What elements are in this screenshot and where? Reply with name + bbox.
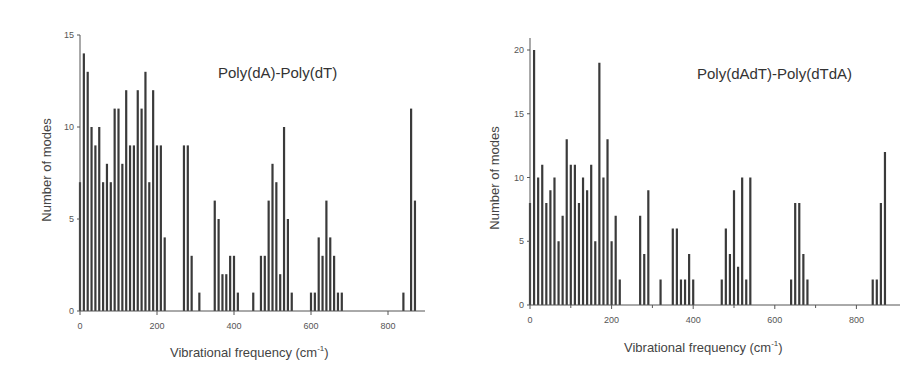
bar [291,293,293,311]
bar [318,237,320,311]
bar [749,178,751,306]
bar [198,293,200,311]
bar [806,280,808,306]
left-chart-title: Poly(dA)-Poly(dT) [218,64,337,81]
bar [615,216,617,305]
bar [541,165,543,305]
bar [187,145,189,311]
y-tick-label: 0 [69,306,74,316]
bar [578,203,580,305]
x-tick-label: 400 [686,315,701,325]
bar [337,293,339,311]
bar [611,241,613,305]
bar [325,201,327,311]
bar [557,241,559,305]
right-y-axis-title: Number of modes [487,126,502,230]
bar [271,164,273,311]
x-tick-label: 600 [767,315,782,325]
bar [260,256,262,311]
bar [737,267,739,305]
bar [83,53,85,311]
bar [590,165,592,305]
bar [688,254,690,305]
bar [537,178,539,306]
bar [410,109,412,311]
bar [680,280,682,306]
bar [110,182,112,311]
bar [329,237,331,311]
bar [314,293,316,311]
bar [221,274,223,311]
bar [802,254,804,305]
bar [545,203,547,305]
bar [283,127,285,311]
bar [741,178,743,306]
bar [310,293,312,311]
bar [141,109,143,311]
bar [790,280,792,306]
bar [619,280,621,306]
right-x-axis-title: Vibrational frequency (cm-1) [624,339,783,355]
bar [586,190,588,305]
bar [214,201,216,311]
bar [402,293,404,311]
bar [794,203,796,305]
bar [676,229,678,306]
bar [148,182,150,311]
bar [606,139,608,305]
bar [745,280,747,306]
bar [729,254,731,305]
right-chart-title: Poly(dAdT)-Poly(dTdA) [697,65,852,82]
x-tick-label: 200 [604,315,619,325]
bar [659,280,661,306]
bar [90,127,92,311]
bar [114,109,116,311]
y-tick-label: 5 [519,236,524,246]
x-tick-label: 400 [226,321,241,331]
right-bars [529,50,886,305]
x-tick-label: 0 [527,315,532,325]
bar [264,256,266,311]
x-tick-label: 600 [303,321,318,331]
bar [553,178,555,306]
bar [414,201,416,311]
bar [102,182,104,311]
bar [574,165,576,305]
bar [872,280,874,306]
bar [237,293,239,311]
bar [884,152,886,305]
bar [684,280,686,306]
bar [549,190,551,305]
left-y-axis-title: Number of modes [39,118,54,222]
bar [133,145,135,311]
right-chart: 051015200200400600800 Poly(dAdT)-Poly(dT… [487,38,900,355]
left-x-axis-title: Vibrational frequency (cm-1) [170,344,329,360]
y-tick-label: 10 [514,173,524,183]
bar [252,293,254,311]
bar [333,256,335,311]
bar [643,254,645,305]
bar [721,280,723,306]
bar [117,109,119,311]
bar [268,201,270,311]
bar [129,145,131,311]
figure-canvas: 0510150200400600800 Poly(dA)-Poly(dT) Nu… [0,0,901,377]
y-tick-label: 0 [519,300,524,310]
bar [880,203,882,305]
bar [233,256,235,311]
x-tick-label: 0 [77,321,82,331]
bar [733,190,735,305]
y-tick-label: 5 [69,214,74,224]
bar [229,256,231,311]
bar [218,219,220,311]
bar [594,241,596,305]
bar [164,237,166,311]
bar [598,63,600,305]
bar [137,90,139,311]
bar [279,274,281,311]
bar [98,127,100,311]
bar [287,219,289,311]
x-tick-label: 200 [149,321,164,331]
bar [156,145,158,311]
bar [582,178,584,306]
